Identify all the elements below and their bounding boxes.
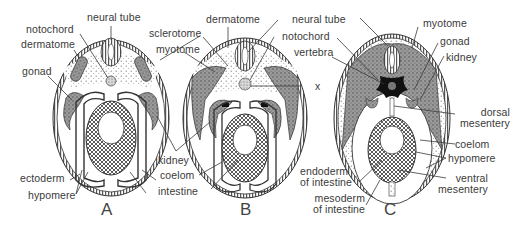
label-a-dermatome: dermatome (21, 39, 75, 50)
label-c-coelom: coelom (455, 139, 489, 150)
label-b-sclerotome: sclerotome (149, 28, 201, 39)
label-c-gonad: gonad (440, 36, 470, 47)
label-b-myotome: myotome (156, 44, 200, 55)
label-c-notochord: notochord (282, 31, 330, 42)
panel-a-drawing (53, 38, 169, 196)
label-c-hypomere: hypomere (448, 153, 496, 164)
label-c-neural-tube: neural tube (292, 14, 346, 25)
label-c-ventral-mesentery: ventral mesentery (438, 173, 488, 195)
label-a-neural-tube: neural tube (87, 12, 141, 23)
label-c-endoderm-of-intestine: endoderm of intestine (300, 166, 352, 188)
panel-b-drawing (183, 38, 307, 198)
panel-letter-b: B (240, 200, 251, 220)
embryo-cross-section-figure: neural tube notochord dermatome gonad ec… (0, 0, 518, 228)
label-c-mesoderm-of-intestine: mesoderm of intestine (313, 193, 365, 215)
label-c-vertebra: vertebra (294, 47, 333, 58)
label-b-x: x (315, 81, 320, 92)
label-b-coelom: coelom (160, 170, 194, 181)
label-a-gonad: gonad (22, 66, 52, 77)
panel-letter-c: C (384, 200, 396, 220)
panel-letter-a: A (101, 200, 112, 220)
label-c-dorsal-mesentery: dorsal mesentery (460, 107, 510, 129)
label-a-notochord: notochord (26, 24, 74, 35)
label-b-kidney: kidney (158, 155, 189, 166)
label-a-hypomere: hypomere (28, 190, 76, 201)
label-a-ectoderm: ectoderm (20, 173, 65, 184)
label-c-kidney: kidney (446, 52, 477, 63)
label-c-myotome: myotome (423, 18, 467, 29)
label-b-intestine: intestine (158, 186, 198, 197)
label-b-dermatome: dermatome (206, 14, 260, 25)
